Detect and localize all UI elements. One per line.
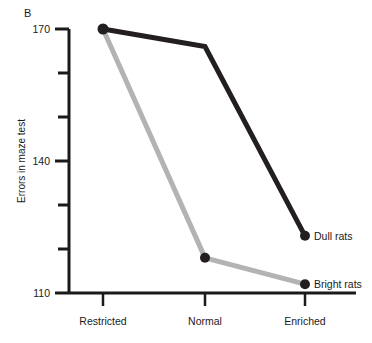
y-tick-label-110: 110 [33, 287, 50, 299]
y-tick-label-170: 170 [32, 23, 50, 35]
series-line-dull-rats [103, 29, 305, 236]
chart-figure: B Errors in maze test 170 140 110 Restri… [0, 0, 372, 343]
panel-label-b: B [24, 7, 31, 19]
series-label-bright-rats: Bright rats [314, 278, 362, 290]
marker-dull-rats-enriched [300, 231, 310, 241]
y-axis-title: Errors in maze test [16, 119, 27, 203]
errors-in-maze-test-line-chart: B Errors in maze test 170 140 110 Restri… [0, 0, 372, 343]
series-label-dull-rats: Dull rats [314, 230, 353, 242]
x-tick-label-enriched: Enriched [284, 315, 326, 327]
marker-bright-rats-enriched [300, 279, 310, 289]
series-line-bright-rats [103, 29, 305, 284]
x-tick-label-restricted: Restricted [79, 315, 126, 327]
x-tick-label-normal: Normal [188, 315, 222, 327]
y-tick-label-140: 140 [32, 155, 50, 167]
marker-restricted-shared [98, 24, 109, 35]
marker-bright-rats-normal [200, 253, 210, 263]
